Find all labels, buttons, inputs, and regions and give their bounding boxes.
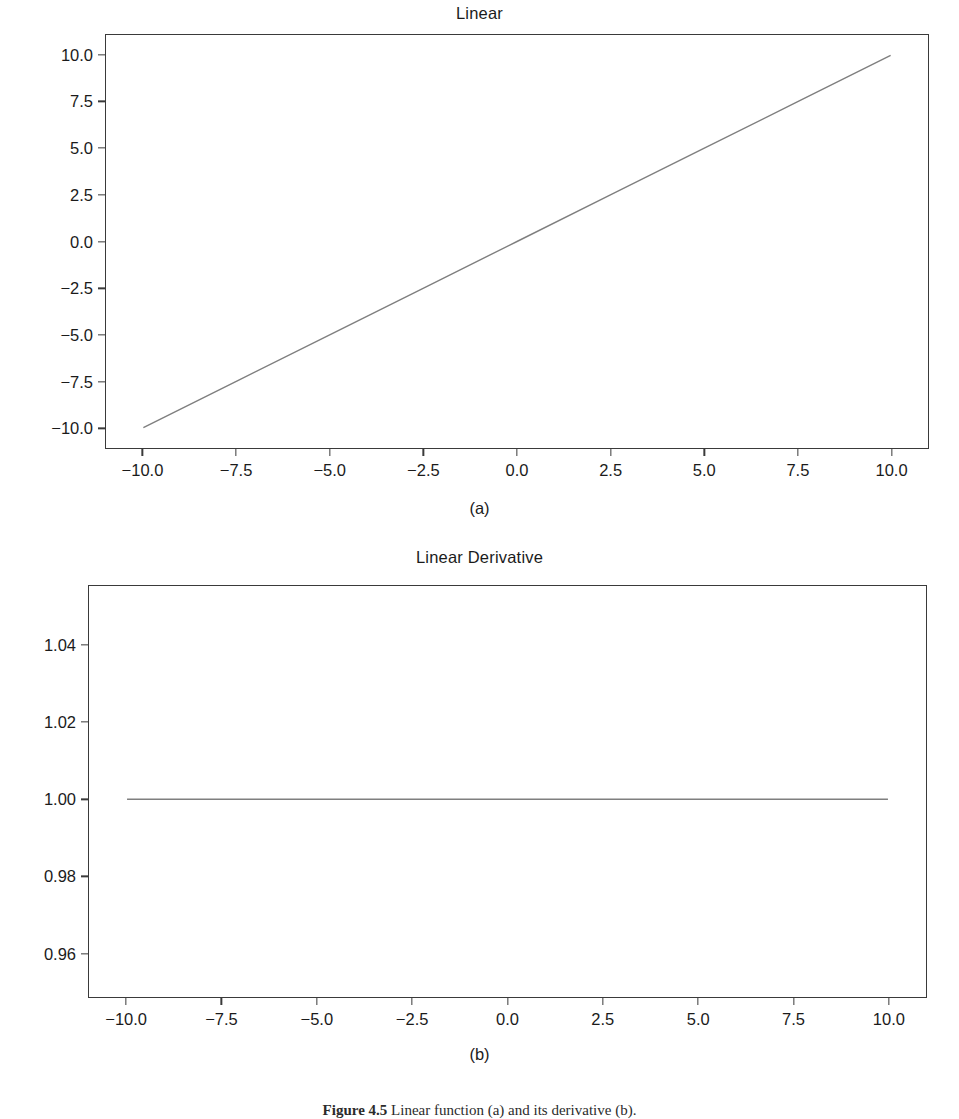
y-tick-label: −10.0 [27, 419, 93, 438]
series-path-fx [143, 55, 890, 427]
y-tick-mark [81, 799, 88, 800]
subcaption-a: (a) [0, 499, 959, 518]
x-tick-mark [221, 998, 222, 1005]
x-tick-mark [610, 449, 611, 456]
chart-title-linear-derivative: Linear Derivative [0, 548, 959, 567]
x-tick-mark [423, 449, 424, 456]
panel-linear-derivative: Linear Derivative 1.041.021.000.980.96 −… [0, 540, 959, 1085]
x-tick-label: −10.0 [105, 1010, 147, 1029]
x-tick-label: 5.0 [693, 461, 716, 480]
x-tick-mark [704, 449, 705, 456]
x-tick-label: −7.5 [205, 1010, 238, 1029]
y-tick-mark [98, 147, 105, 148]
x-tick-label: 2.5 [591, 1010, 614, 1029]
y-tick-label: 5.0 [27, 139, 93, 158]
y-tick-mark [98, 381, 105, 382]
y-tick-mark [98, 288, 105, 289]
x-tick-mark [602, 998, 603, 1005]
line-series-linear [106, 35, 928, 448]
x-tick-label: −10.0 [122, 461, 164, 480]
y-tick-mark [81, 644, 88, 645]
y-tick-label: 0.96 [10, 944, 76, 963]
x-tick-mark [142, 449, 143, 456]
y-tick-label: 1.00 [10, 790, 76, 809]
x-tick-label: 0.0 [506, 461, 529, 480]
x-tick-mark [235, 449, 236, 456]
x-tick-label: −5.0 [313, 461, 346, 480]
y-tick-mark [81, 721, 88, 722]
x-tick-mark [329, 449, 330, 456]
x-tick-mark [516, 449, 517, 456]
y-tick-label: 0.0 [27, 232, 93, 251]
y-tick-label: 2.5 [27, 185, 93, 204]
chart-title-linear: Linear [0, 4, 959, 23]
plot-area-linear-derivative [88, 585, 927, 998]
y-tick-mark [98, 194, 105, 195]
plot-inner-linear-derivative [89, 586, 926, 997]
x-tick-label: 7.5 [786, 461, 809, 480]
figure-caption: Figure 4.5 Linear function (a) and its d… [0, 1102, 959, 1119]
x-tick-mark [698, 998, 699, 1005]
x-tick-mark [797, 449, 798, 456]
y-tick-mark [98, 334, 105, 335]
x-tick-label: −7.5 [220, 461, 253, 480]
figure-caption-number: Figure 4.5 [323, 1102, 388, 1118]
figure-caption-text: Linear function (a) and its derivative (… [391, 1102, 636, 1118]
x-tick-label: 2.5 [599, 461, 622, 480]
x-tick-label: −5.0 [301, 1010, 334, 1029]
y-tick-label: −2.5 [27, 279, 93, 298]
x-tick-mark [412, 998, 413, 1005]
x-tick-mark [125, 998, 126, 1005]
y-tick-mark [81, 953, 88, 954]
y-tick-label: 10.0 [27, 45, 93, 64]
y-tick-mark [98, 54, 105, 55]
y-tick-label: 1.02 [10, 713, 76, 732]
x-tick-label: 7.5 [782, 1010, 805, 1029]
y-tick-mark [81, 876, 88, 877]
y-tick-label: 1.04 [10, 635, 76, 654]
x-tick-label: −2.5 [396, 1010, 429, 1029]
plot-area-linear [105, 34, 929, 449]
x-tick-label: −2.5 [407, 461, 440, 480]
x-tick-label: 5.0 [687, 1010, 710, 1029]
x-tick-mark [507, 998, 508, 1005]
line-series-linear-derivative [89, 586, 926, 997]
plot-inner-linear [106, 35, 928, 448]
y-tick-mark [98, 428, 105, 429]
y-tick-label: 7.5 [27, 92, 93, 111]
x-tick-mark [316, 998, 317, 1005]
x-tick-mark [793, 998, 794, 1005]
y-tick-label: −7.5 [27, 372, 93, 391]
x-tick-label: 10.0 [873, 1010, 905, 1029]
x-tick-mark [891, 449, 892, 456]
y-tick-label: 0.98 [10, 867, 76, 886]
x-tick-label: 0.0 [496, 1010, 519, 1029]
y-tick-label: −5.0 [27, 325, 93, 344]
y-tick-mark [98, 101, 105, 102]
subcaption-b: (b) [0, 1045, 959, 1064]
x-tick-mark [888, 998, 889, 1005]
y-tick-mark [98, 241, 105, 242]
panel-linear: Linear 10.07.55.02.50.0−2.5−5.0−7.5−10.0… [0, 0, 959, 540]
x-tick-label: 10.0 [875, 461, 907, 480]
